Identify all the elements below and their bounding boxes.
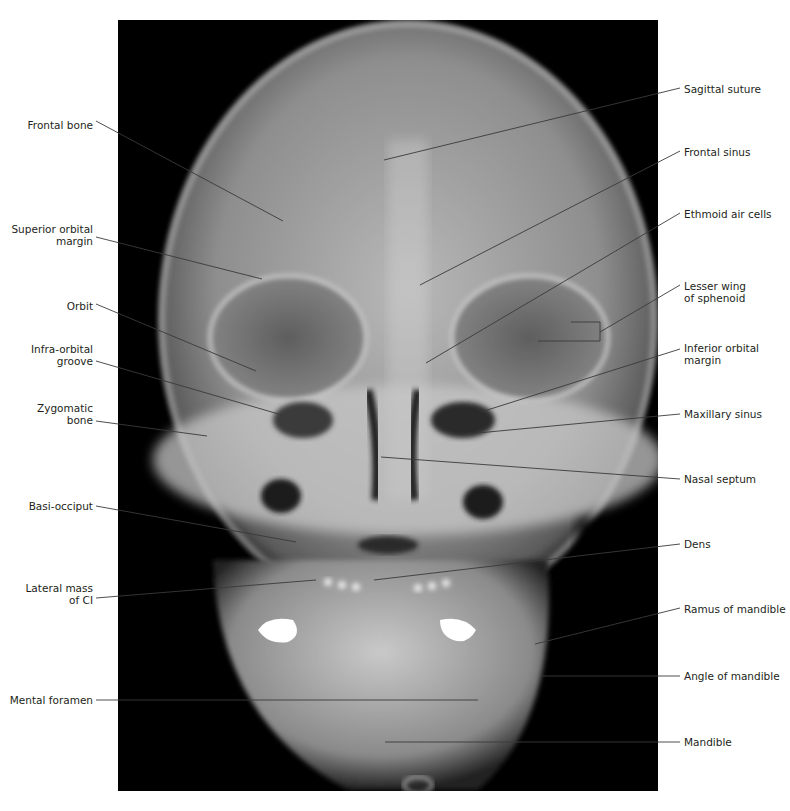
label-inferior-orbital-margin: Inferior orbitalmargin [684,342,759,366]
label-text-line: Infra-orbital [31,343,93,355]
label-orbit: Orbit [67,300,93,312]
leader-zygomatic-bone [96,421,207,436]
label-sagittal-suture: Sagittal suture [684,83,761,95]
label-text-line: Inferior orbital [684,342,759,354]
label-text-line: Frontal bone [28,119,93,131]
label-lesser-wing-of-sphenoid: Lesser wingof sphenoid [684,280,746,304]
label-text-line: Zygomatic [37,402,93,414]
label-maxillary-sinus: Maxillary sinus [684,408,762,420]
bracket-lesser-wing-of-sphenoid [538,322,600,341]
leader-maxillary-sinus [467,414,680,434]
label-text-line: Frontal sinus [684,146,750,158]
label-text-line: Ethmoid air cells [684,208,772,220]
label-text-line: Angle of mandible [684,670,780,682]
label-superior-orbital-margin: Superior orbitalmargin [11,223,93,247]
label-infra-orbital-groove: Infra-orbitalgroove [31,343,93,367]
leader-ethmoid-air-cells [426,213,680,363]
leader-frontal-bone [96,121,283,221]
label-lateral-mass-of-c1: Lateral massof CI [26,582,93,606]
label-text-line: Lesser wing [684,280,746,292]
leader-ramus-of-mandible [535,608,680,644]
label-text-line: Nasal septum [684,473,756,485]
leader-basi-occiput [96,506,296,542]
label-text-line: of CI [26,594,93,606]
label-text-line: Sagittal suture [684,83,761,95]
label-text-line: margin [11,235,93,247]
label-text-line: Lateral mass [26,582,93,594]
label-text-line: Ramus of mandible [684,603,786,615]
leader-frontal-sinus [420,151,680,285]
leader-lesser-wing-of-sphenoid [600,285,680,332]
label-basi-occiput: Basi-occiput [29,500,93,512]
label-zygomatic-bone: Zygomaticbone [37,402,93,426]
label-text-line: Superior orbital [11,223,93,235]
label-text-line: Mandible [684,736,732,748]
label-angle-of-mandible: Angle of mandible [684,670,780,682]
label-text-line: Dens [684,538,711,550]
skull-xray-figure: Frontal boneSuperior orbitalmarginOrbitI… [0,0,790,811]
label-text-line: Basi-occiput [29,500,93,512]
leader-inferior-orbital-margin [481,349,680,412]
label-ethmoid-air-cells: Ethmoid air cells [684,208,772,220]
leader-infra-orbital-groove [96,361,282,415]
leader-superior-orbital-margin [96,237,262,279]
label-frontal-sinus: Frontal sinus [684,146,750,158]
leader-lateral-mass-of-c1 [96,580,316,598]
leader-dens [374,544,680,580]
label-text-line: groove [31,355,93,367]
label-text-line: margin [684,354,759,366]
label-mental-foramen: Mental foramen [10,694,93,706]
label-mandible: Mandible [684,736,732,748]
leader-orbit [96,304,256,371]
label-text-line: Orbit [67,300,93,312]
label-text-line: of sphenoid [684,292,746,304]
label-text-line: bone [37,414,93,426]
leader-nasal-septum [381,457,680,479]
label-text-line: Mental foramen [10,694,93,706]
leader-sagittal-suture [384,88,680,160]
label-text-line: Maxillary sinus [684,408,762,420]
label-nasal-septum: Nasal septum [684,473,756,485]
label-dens: Dens [684,538,711,550]
label-frontal-bone: Frontal bone [28,119,93,131]
leader-lines [0,0,790,811]
label-ramus-of-mandible: Ramus of mandible [684,603,786,615]
